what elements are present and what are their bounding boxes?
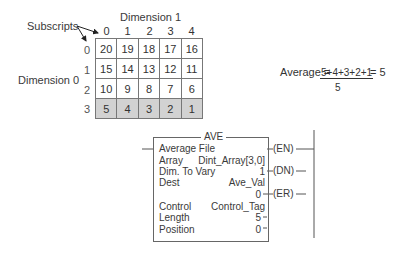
block-title: AVE	[201, 131, 226, 142]
column-index: 2	[139, 25, 160, 37]
param-label: Control	[159, 201, 191, 212]
param-label: Length	[159, 212, 190, 223]
dest-current-value: 0	[255, 189, 261, 200]
row-index: 2	[84, 84, 90, 96]
column-index: 1	[117, 25, 138, 37]
param-label: Dest	[159, 177, 180, 188]
array-cell: 10	[96, 79, 117, 99]
array-cell: 14	[117, 59, 138, 79]
array-cell: 16	[181, 39, 202, 59]
formula-denominator: 5	[335, 82, 341, 93]
column-index: 4	[181, 25, 202, 37]
param-value: 5	[255, 212, 261, 223]
array-row: 15 14 13 12 11	[96, 59, 203, 79]
row-index: 3	[84, 103, 90, 115]
param-value: Control_Tag	[211, 201, 265, 212]
array-cell: 7	[160, 79, 181, 99]
output-dn: (DN)	[273, 165, 294, 176]
output-en: (EN)	[273, 143, 294, 154]
array-cell: 9	[117, 79, 138, 99]
param-value: Ave_Val	[229, 177, 265, 188]
array-cell: 1	[181, 99, 202, 119]
dimension0-label: Dimension 0	[18, 74, 79, 86]
array-cell: 6	[181, 79, 202, 99]
param-value: 1	[259, 166, 265, 177]
array-cell: 3	[138, 99, 159, 119]
array-cell: 11	[181, 59, 202, 79]
array-cell: 8	[138, 79, 159, 99]
param-value: 0	[255, 224, 261, 235]
subscripts-label: Subscripts	[27, 20, 78, 32]
dimension1-label: Dimension 1	[120, 11, 181, 23]
row-index: 0	[84, 44, 90, 56]
array-grid: 20 19 18 17 16 15 14 13 12 11 10 9 8 7 6…	[95, 38, 203, 119]
array-row: 10 9 8 7 6	[96, 79, 203, 99]
param-label: Array	[159, 155, 183, 166]
ave-instruction-block: AVE Average File Array Dint_Array[3,0] D…	[153, 137, 269, 242]
array-cell: 18	[138, 39, 159, 59]
array-row-highlighted: 5 4 3 2 1	[96, 99, 203, 119]
array-cell: 15	[96, 59, 117, 79]
param-label: Position	[159, 224, 195, 235]
formula-result: = 5	[370, 66, 386, 78]
array-cell: 13	[138, 59, 159, 79]
array-cell: 4	[117, 99, 138, 119]
formula-numerator: 5+4+3+2+1	[320, 67, 373, 79]
row-index: 1	[84, 64, 90, 76]
array-cell: 17	[160, 39, 181, 59]
param-value: Dint_Array[3,0]	[198, 155, 265, 166]
array-row: 20 19 18 17 16	[96, 39, 203, 59]
param-label: Dim. To Vary	[159, 166, 215, 177]
array-cell: 2	[160, 99, 181, 119]
column-index: 0	[96, 25, 117, 37]
array-cell: 5	[96, 99, 117, 119]
array-cell: 20	[96, 39, 117, 59]
column-index: 3	[160, 25, 181, 37]
block-subtitle: Average File	[159, 143, 215, 154]
array-cell: 19	[117, 39, 138, 59]
array-cell: 12	[160, 59, 181, 79]
output-er: (ER)	[273, 188, 294, 199]
